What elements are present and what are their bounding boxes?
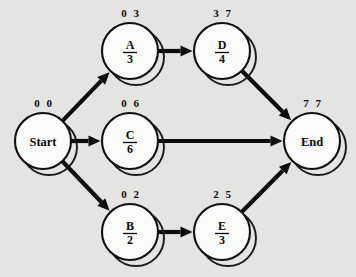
edge-e-end — [241, 162, 291, 213]
arrowhead-a-d — [181, 46, 193, 57]
node-a[interactable]: A30 3 — [102, 7, 164, 85]
node-times-label: 0 0 — [34, 97, 54, 109]
node-e[interactable]: E32 5 — [194, 188, 256, 266]
node-times-label: 2 5 — [213, 188, 233, 200]
edge-d-end — [241, 70, 291, 120]
node-times-label: 7 7 — [303, 97, 323, 109]
node-activity-letter: B — [126, 219, 134, 233]
node-name-label: Start — [29, 135, 57, 149]
node-c[interactable]: C60 6 — [102, 97, 164, 175]
node-activity-letter: C — [126, 128, 135, 142]
edge-start-a — [62, 72, 110, 121]
node-times-label: 0 3 — [121, 7, 141, 19]
network-diagram-canvas: Start0 0A30 3C60 6B20 2D43 7E32 5End7 7 — [0, 0, 356, 277]
node-times-label: 3 7 — [213, 7, 233, 19]
node-duration-value: 3 — [219, 233, 225, 247]
node-duration-value: 3 — [127, 52, 133, 66]
node-b[interactable]: B20 2 — [102, 188, 164, 266]
node-end[interactable]: End7 7 — [284, 97, 346, 175]
node-start[interactable]: Start0 0 — [15, 97, 77, 175]
node-duration-value: 2 — [127, 233, 133, 247]
arrowhead-b-e — [181, 227, 193, 238]
edges-layer — [62, 46, 292, 238]
node-name-label: End — [301, 135, 323, 149]
node-duration-value: 6 — [127, 142, 133, 156]
node-activity-letter: E — [218, 219, 226, 233]
network-diagram-svg: Start0 0A30 3C60 6B20 2D43 7E32 5End7 7 — [0, 0, 356, 277]
node-times-label: 0 6 — [121, 97, 141, 109]
node-activity-letter: A — [126, 38, 135, 52]
node-times-label: 0 2 — [121, 188, 141, 200]
arrowhead-start-c — [89, 136, 101, 147]
edge-c-end — [157, 136, 283, 147]
arrowhead-c-end — [271, 136, 283, 147]
node-duration-value: 4 — [219, 52, 225, 66]
node-activity-letter: D — [218, 38, 227, 52]
